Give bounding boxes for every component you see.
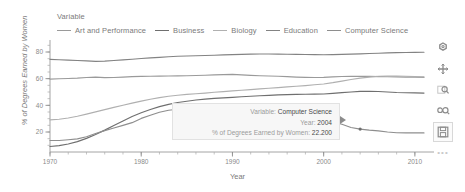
x-tick-label: 2000 bbox=[316, 158, 331, 165]
x-tick-label: 2010 bbox=[408, 158, 423, 165]
more-icon-dots: ••• bbox=[437, 149, 448, 157]
tooltip-pointer-icon bbox=[340, 116, 346, 124]
tooltip-variable-row: Variable: Computer Science bbox=[177, 107, 332, 118]
x-tick-label: 1980 bbox=[134, 158, 149, 165]
save-icon[interactable] bbox=[433, 122, 453, 142]
zoom-out-icon[interactable] bbox=[433, 101, 453, 121]
reset-icon[interactable] bbox=[433, 38, 453, 58]
y-tick-label: 40 bbox=[36, 102, 44, 109]
tooltip-pct-key: % of Degrees Earned by Women: bbox=[212, 129, 310, 136]
y-tick-label: 80 bbox=[36, 48, 44, 55]
tooltip: Variable: Computer Science Year: 2004 % … bbox=[172, 103, 340, 140]
tooltip-year-value: 2004 bbox=[317, 119, 332, 126]
tooltip-variable-value: Computer Science bbox=[278, 108, 332, 115]
highlighted-data-point[interactable] bbox=[359, 127, 362, 130]
y-tick-label: 60 bbox=[36, 75, 44, 82]
zoom-in-icon[interactable] bbox=[433, 80, 453, 100]
x-tick-label: 1990 bbox=[225, 158, 240, 165]
x-tick-label: 1970 bbox=[43, 158, 58, 165]
pan-icon[interactable] bbox=[433, 59, 453, 79]
tooltip-year-key: Year: bbox=[300, 119, 315, 126]
more-icon[interactable]: ••• bbox=[433, 143, 453, 163]
tooltip-year-row: Year: 2004 bbox=[177, 118, 332, 129]
tooltip-pct-row: % of Degrees Earned by Women: 22.200 bbox=[177, 128, 332, 139]
series-line[interactable] bbox=[50, 52, 424, 61]
tooltip-variable-key: Variable: bbox=[250, 108, 276, 115]
chart-toolbar: ••• bbox=[428, 38, 458, 164]
tooltip-pct-value: 22.200 bbox=[312, 129, 332, 136]
plot-area[interactable]: 1970198019902000201020406080 bbox=[0, 0, 465, 192]
y-tick-label: 20 bbox=[36, 128, 44, 135]
chart-container: Variable Art and PerformanceBusinessBiol… bbox=[0, 0, 465, 192]
